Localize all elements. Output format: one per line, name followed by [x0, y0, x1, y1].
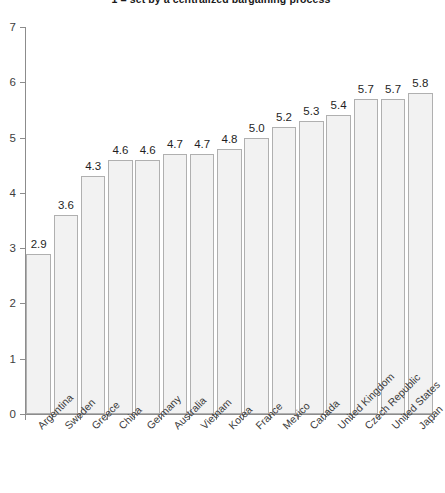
- bar: [354, 99, 379, 414]
- bar: [326, 115, 351, 414]
- bar: [272, 127, 297, 414]
- y-tick-label: 0: [0, 408, 16, 420]
- bar-value-label: 5.8: [400, 77, 440, 89]
- y-tick-label: 2: [0, 297, 16, 309]
- y-tick-mark: [20, 193, 25, 194]
- bar-value-label: 4.8: [210, 133, 250, 145]
- y-tick-label: 4: [0, 187, 16, 199]
- bar-value-label: 5.0: [237, 122, 277, 134]
- y-tick-label: 7: [0, 21, 16, 33]
- y-tick-mark: [20, 303, 25, 304]
- chart-title: 1 = set by a centralized bargaining proc…: [0, 0, 442, 5]
- bar: [108, 160, 133, 414]
- bar: [299, 121, 324, 414]
- y-tick-mark: [20, 359, 25, 360]
- bar-value-label: 4.3: [73, 160, 113, 172]
- bar: [381, 99, 406, 414]
- bar-value-label: 2.9: [19, 238, 59, 250]
- x-tick-mark: [25, 415, 26, 420]
- bar: [135, 160, 160, 414]
- y-tick-mark: [20, 27, 25, 28]
- bar: [190, 154, 215, 414]
- bar: [163, 154, 188, 414]
- bar: [217, 149, 242, 414]
- y-tick-mark: [20, 138, 25, 139]
- y-tick-label: 1: [0, 353, 16, 365]
- y-tick-mark: [20, 82, 25, 83]
- bar-value-label: 5.4: [319, 99, 359, 111]
- y-tick-label: 6: [0, 76, 16, 88]
- bar: [81, 176, 106, 414]
- bar: [408, 93, 433, 414]
- bar-value-label: 3.6: [46, 199, 86, 211]
- bar: [244, 138, 269, 414]
- y-tick-label: 5: [0, 132, 16, 144]
- bar: [26, 254, 51, 414]
- y-tick-label: 3: [0, 242, 16, 254]
